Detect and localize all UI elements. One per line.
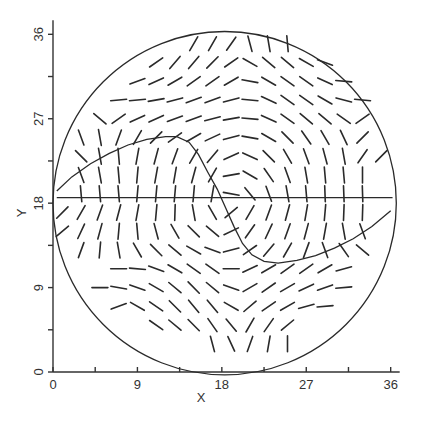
field-segment — [281, 114, 294, 123]
field-segment — [337, 114, 350, 123]
field-segment — [186, 97, 201, 102]
field-segment — [243, 153, 257, 160]
field-segment — [242, 99, 258, 100]
y-axis-label: Y — [14, 208, 29, 217]
field-segment — [205, 97, 220, 102]
y-tick-label: 0 — [31, 368, 46, 375]
field-segment — [188, 226, 199, 237]
field-segment — [78, 130, 84, 145]
field-segment — [118, 186, 119, 202]
field-segment — [245, 225, 254, 238]
field-segment — [262, 115, 277, 122]
field-segment — [99, 167, 102, 183]
field-segment — [206, 226, 218, 236]
field-segment — [205, 134, 220, 141]
x-tick-label: 9 — [134, 377, 141, 392]
field-segment — [192, 167, 196, 182]
field-segment — [207, 300, 217, 312]
field-segment — [187, 134, 201, 142]
field-segment — [223, 192, 239, 195]
field-segment — [284, 243, 292, 257]
field-segment — [356, 114, 369, 123]
field-segment — [286, 186, 289, 202]
field-segment — [211, 186, 214, 202]
field-segment — [300, 95, 313, 104]
x-tick-label: 27 — [299, 377, 313, 392]
field-segment — [168, 265, 182, 273]
field-segment — [136, 205, 139, 221]
field-segment — [118, 167, 119, 183]
field-segment — [319, 114, 331, 124]
field-segment — [300, 264, 313, 273]
field-segment — [281, 320, 293, 330]
field-segment — [209, 206, 217, 220]
field-segment — [151, 244, 162, 255]
field-segment — [174, 167, 177, 183]
direction-field-chart: 0918273609182736 X Y — [0, 0, 427, 427]
field-segment — [281, 77, 294, 86]
field-segment — [244, 301, 256, 311]
field-segment — [281, 57, 293, 67]
field-segment — [344, 186, 345, 202]
field-segment — [170, 56, 180, 68]
field-segment — [224, 135, 239, 139]
field-segment — [118, 148, 119, 164]
field-segment — [130, 115, 144, 122]
field-segment — [284, 149, 292, 163]
field-segment — [210, 336, 214, 351]
field-segment — [156, 186, 157, 202]
field-segment — [192, 205, 195, 221]
field-segment — [99, 130, 102, 146]
field-segment — [318, 285, 333, 290]
field-segment — [281, 302, 295, 310]
field-segment — [131, 302, 145, 310]
field-segment — [77, 206, 85, 220]
field-segment — [189, 56, 199, 68]
field-segment — [149, 284, 163, 292]
field-segment — [118, 223, 119, 239]
field-segment — [243, 59, 257, 67]
field-segment — [133, 243, 141, 257]
field-segment — [111, 304, 126, 310]
field-segment — [224, 248, 239, 252]
x-axis-label: X — [197, 390, 206, 405]
field-segment — [188, 282, 199, 293]
field-segment — [362, 186, 363, 202]
field-segment — [155, 167, 158, 183]
field-segment — [137, 167, 138, 183]
field-segment — [300, 114, 312, 124]
field-segment — [150, 58, 163, 67]
field-segment — [322, 243, 327, 258]
field-segment — [242, 80, 258, 83]
field-segment — [226, 319, 236, 331]
field-segment — [305, 205, 308, 221]
field-segment — [304, 149, 310, 164]
field-segment — [248, 36, 252, 51]
field-segment — [340, 130, 347, 144]
field-segment — [304, 243, 310, 258]
field-segment — [224, 302, 238, 310]
field-segment — [318, 265, 332, 273]
field-segment — [266, 205, 272, 220]
field-segment — [174, 186, 175, 202]
field-segment — [342, 148, 345, 164]
field-segment — [267, 336, 270, 352]
field-segment — [98, 224, 102, 239]
field-segment — [299, 284, 314, 291]
field-segment — [190, 37, 198, 51]
field-segment — [206, 264, 219, 273]
field-segment — [262, 265, 276, 273]
field-segment — [111, 99, 127, 100]
field-segment — [264, 319, 273, 332]
field-segment — [154, 224, 158, 239]
field-segment — [187, 246, 201, 254]
field-segment — [336, 98, 351, 102]
y-tick-label: 9 — [31, 284, 46, 291]
field-segment — [193, 186, 194, 202]
field-segment — [112, 114, 125, 123]
field-segment — [225, 58, 238, 67]
field-segment — [247, 336, 252, 351]
y-tick-label: 18 — [31, 196, 46, 210]
field-segment — [130, 285, 145, 290]
field-segment — [130, 99, 146, 100]
